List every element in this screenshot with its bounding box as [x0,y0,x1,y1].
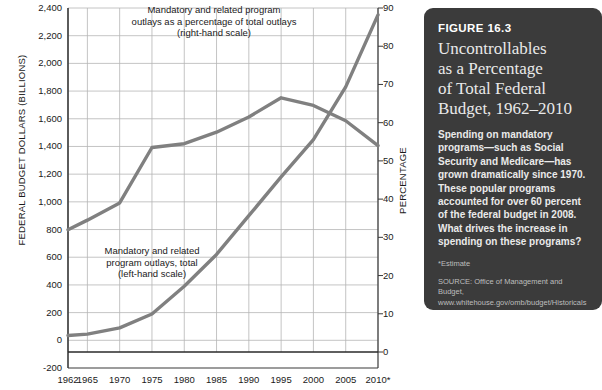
figure-number-label: FIGURE 16.3 [438,22,589,34]
figure-estimate-footnote: *Estimate [438,259,589,268]
figure-title: Uncontrollables as a Percentage of Total… [438,39,589,119]
series-line-2 [68,98,378,230]
figure-caption-panel: FIGURE 16.3 Uncontrollables as a Percent… [424,8,602,310]
dollars-series-note: Mandatory and related program outlays, t… [72,245,232,280]
figure-chart: FEDERAL BUDGET DOLLARS (BILLIONS) PERCEN… [0,0,420,390]
percentage-series-note: Mandatory and related program outlays as… [104,4,324,39]
figure-source-note: SOURCE: Office of Management and Budget,… [438,277,589,310]
plot-area [0,0,420,390]
figure-description-text: Spending on mandatory programs—such as S… [438,128,589,249]
gridlines [68,8,378,352]
axis-lines [68,8,383,368]
